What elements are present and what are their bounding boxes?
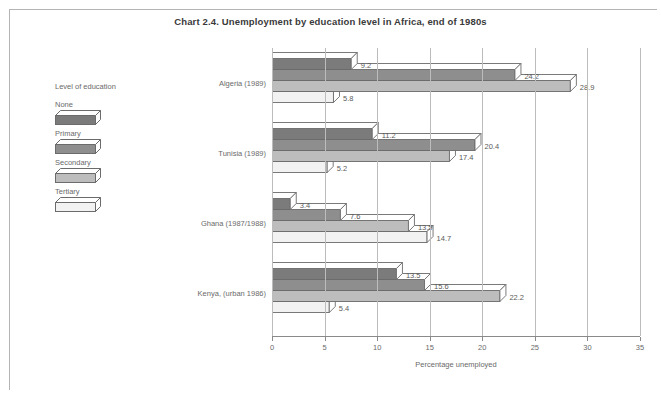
category-label: Tunisia (1989) [218, 149, 266, 158]
category-label: Kenya, (urban 1986) [198, 289, 266, 298]
gridline [377, 48, 378, 336]
axis-tick [325, 337, 326, 341]
axis-tick-label: 35 [636, 343, 644, 352]
gridline [640, 48, 641, 336]
gridline [325, 48, 326, 336]
axis-tick [587, 337, 588, 341]
axis-tick-label: 10 [373, 343, 381, 352]
legend-swatch-none-icon [55, 110, 101, 123]
category-labels: Algeria (1989)Tunisia (1989)Ghana (1987/… [150, 48, 266, 336]
axis-tick-label: 25 [531, 343, 539, 352]
plot-gridlines [272, 48, 640, 336]
legend-swatch-secondary-icon [55, 168, 101, 181]
axis-tick [272, 337, 273, 341]
axis-tick-label: 0 [270, 343, 274, 352]
gridline [535, 48, 536, 336]
axis-tick [640, 337, 641, 341]
gridline [587, 48, 588, 336]
axis-tick-label: 20 [478, 343, 486, 352]
chart-title: Chart 2.4. Unemployment by education lev… [0, 16, 661, 27]
legend-swatch-primary-icon [55, 139, 101, 152]
gridline [482, 48, 483, 336]
gridline [272, 48, 273, 336]
axis-tick [430, 337, 431, 341]
x-axis: 05101520253035 [272, 336, 640, 337]
x-axis-label: Percentage unemployed [272, 360, 640, 369]
category-label: Ghana (1987/1988) [201, 219, 266, 228]
axis-tick-label: 15 [426, 343, 434, 352]
axis-tick-label: 30 [583, 343, 591, 352]
legend-swatch-tertiary-icon [55, 197, 101, 210]
category-label: Algeria (1989) [219, 79, 266, 88]
axis-tick [535, 337, 536, 341]
axis-tick-label: 5 [322, 343, 326, 352]
gridline [430, 48, 431, 336]
axis-tick [482, 337, 483, 341]
axis-tick [377, 337, 378, 341]
